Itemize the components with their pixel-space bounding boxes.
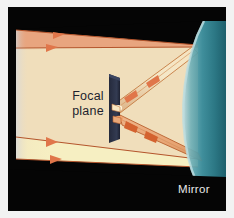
ray-diagram-svg — [8, 7, 226, 211]
diagram-scene — [8, 7, 226, 211]
diagram-plate: Focal plane Mirror — [8, 7, 226, 211]
cone-left-fade — [16, 47, 50, 159]
optics-diagram-figure: Focal plane Mirror — [0, 0, 234, 218]
